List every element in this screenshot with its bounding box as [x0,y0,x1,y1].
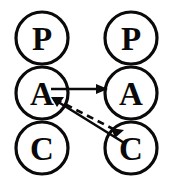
node-label-left-c: C [30,131,54,167]
node-left-a[interactable]: A [16,67,68,119]
node-left-p[interactable]: P [16,12,68,64]
node-left-c[interactable]: C [16,122,68,174]
node-label-left-p: P [32,21,52,57]
node-label-right-c: C [119,131,143,167]
node-label-right-p: P [121,21,141,57]
pac-interaction-diagram: P A C P A C [0,0,171,194]
node-label-left-a: A [30,76,54,112]
node-right-p[interactable]: P [105,12,157,64]
diagram-canvas: P A C P A C [0,0,171,194]
node-group-right-agent: P A C [105,12,157,174]
node-label-right-a: A [119,76,143,112]
node-right-a[interactable]: A [105,67,157,119]
node-group-left-agent: P A C [16,12,68,174]
